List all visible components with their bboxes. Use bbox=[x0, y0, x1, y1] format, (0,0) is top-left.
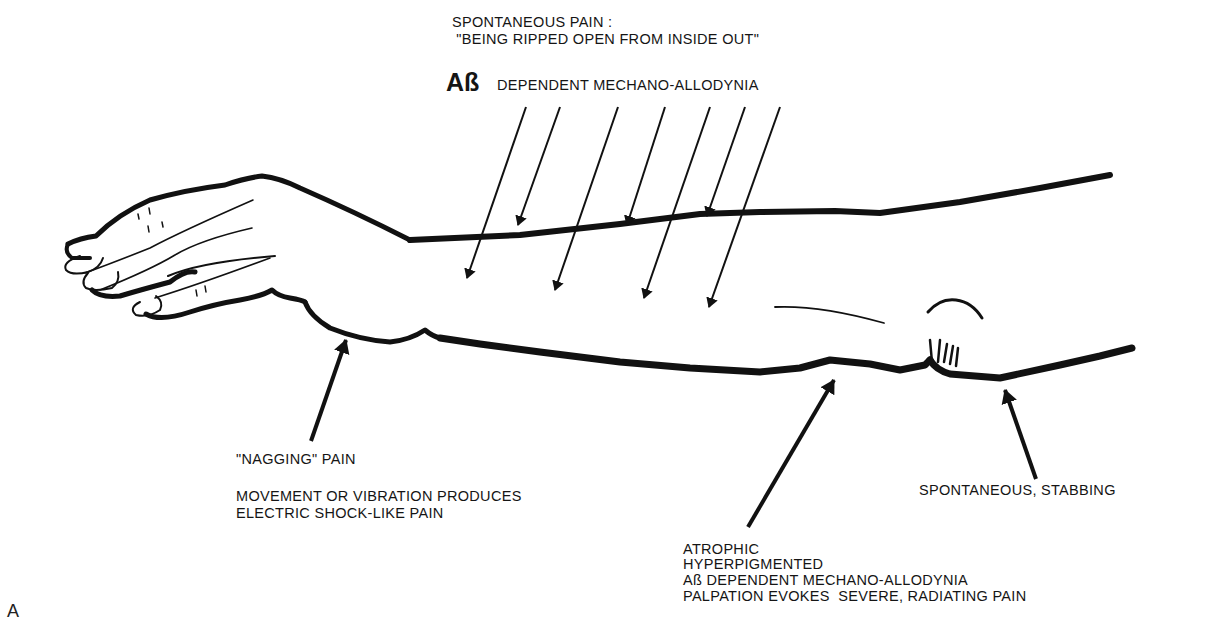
arrow-6 bbox=[707, 107, 745, 216]
arrow-2 bbox=[518, 107, 560, 225]
ab-symbol: Aß bbox=[446, 74, 479, 91]
arrow-nagging bbox=[311, 340, 346, 441]
top-label-allodynia: DEPENDENT MECHANO-ALLODYNIA bbox=[497, 77, 759, 94]
hyperpigmented-label: HYPERPIGMENTED bbox=[683, 556, 823, 573]
ab-allodynia-label: Aß DEPENDENT MECHANO-ALLODYNIA bbox=[683, 572, 968, 589]
stabbing-label: SPONTANEOUS, STABBING bbox=[919, 482, 1116, 499]
arrow-1 bbox=[467, 107, 526, 278]
arm-lower-outline bbox=[305, 300, 1132, 378]
panel-label: A bbox=[7, 601, 19, 622]
arm-illustration bbox=[0, 0, 1214, 627]
arrow-stabbing bbox=[1005, 390, 1036, 479]
hand bbox=[65, 200, 305, 318]
top-label-line1: SPONTANEOUS PAIN : bbox=[452, 14, 612, 31]
palpation-label: PALPATION EVOKES SEVERE, RADIATING PAIN bbox=[683, 588, 1026, 605]
arrow-5 bbox=[644, 107, 710, 298]
top-label-line2: "BEING RIPPED OPEN FROM INSIDE OUT" bbox=[452, 31, 759, 48]
arrow-7 bbox=[709, 107, 780, 307]
nagging-pain-label: "NAGGING" PAIN bbox=[236, 451, 356, 468]
arrow-3 bbox=[555, 107, 618, 290]
arrow-atrophic bbox=[748, 380, 834, 527]
arm-upper-outline bbox=[68, 175, 1110, 244]
top-arrows bbox=[467, 107, 780, 307]
movement-label-line1: MOVEMENT OR VIBRATION PRODUCES bbox=[236, 488, 522, 505]
movement-label-line2: ELECTRIC SHOCK-LIKE PAIN bbox=[236, 505, 444, 522]
arrow-4 bbox=[627, 107, 665, 225]
